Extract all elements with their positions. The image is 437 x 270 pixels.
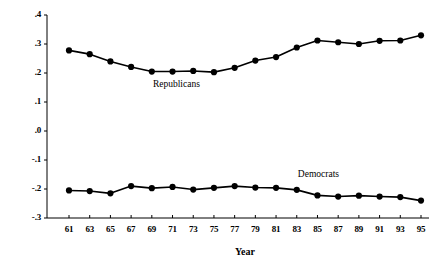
series-line xyxy=(69,35,421,72)
data-point-marker xyxy=(335,39,341,45)
data-point-marker xyxy=(232,65,238,71)
data-point-marker xyxy=(107,58,113,64)
data-point-marker xyxy=(273,185,279,191)
y-axis-tick-label: .3 xyxy=(19,38,41,48)
y-axis-tick-label: .0 xyxy=(19,125,41,135)
x-axis-tick-label: 65 xyxy=(100,224,120,234)
x-axis-tick-label: 87 xyxy=(328,224,348,234)
x-axis-tick-label: 95 xyxy=(411,224,431,234)
data-point-marker xyxy=(87,51,93,57)
data-point-marker xyxy=(66,47,72,53)
data-point-marker xyxy=(356,193,362,199)
data-point-marker xyxy=(149,68,155,74)
data-point-marker xyxy=(294,187,300,193)
axes xyxy=(47,15,429,218)
data-point-marker xyxy=(314,37,320,43)
data-point-marker xyxy=(273,54,279,60)
data-point-marker xyxy=(314,192,320,198)
x-axis-tick-label: 61 xyxy=(59,224,79,234)
x-axis-tick-label: 75 xyxy=(204,224,224,234)
data-point-marker xyxy=(107,190,113,196)
x-axis-tick-label: 85 xyxy=(307,224,327,234)
series-label-republicans: Republicans xyxy=(153,79,200,89)
x-axis-tick-label: 93 xyxy=(390,224,410,234)
data-series-group xyxy=(66,32,424,204)
data-point-marker xyxy=(397,37,403,43)
data-point-marker xyxy=(128,183,134,189)
data-point-marker xyxy=(66,187,72,193)
data-point-marker xyxy=(335,193,341,199)
data-point-marker xyxy=(211,69,217,75)
x-axis-tick-label: 77 xyxy=(225,224,245,234)
data-point-marker xyxy=(252,184,258,190)
y-axis-tick-label: .2 xyxy=(19,67,41,77)
data-point-marker xyxy=(169,184,175,190)
data-point-marker xyxy=(356,41,362,47)
series-line xyxy=(69,186,421,201)
x-axis-tick-label: 69 xyxy=(142,224,162,234)
x-axis-tick-label: 67 xyxy=(121,224,141,234)
series-democrats xyxy=(66,183,424,204)
data-point-marker xyxy=(232,183,238,189)
data-point-marker xyxy=(376,38,382,44)
data-point-marker xyxy=(397,194,403,200)
data-point-marker xyxy=(169,68,175,74)
x-axis-tick-label: 71 xyxy=(163,224,183,234)
data-point-marker xyxy=(149,185,155,191)
y-axis-tick-label: -.1 xyxy=(19,154,41,164)
x-axis-tick-label: 83 xyxy=(287,224,307,234)
x-axis-title: Year xyxy=(215,246,275,257)
data-point-marker xyxy=(418,198,424,204)
data-point-marker xyxy=(252,57,258,63)
data-point-marker xyxy=(294,44,300,50)
data-point-marker xyxy=(376,193,382,199)
y-axis-tick-label: .1 xyxy=(19,96,41,106)
data-point-marker xyxy=(211,185,217,191)
series-label-democrats: Democrats xyxy=(298,169,339,179)
data-point-marker xyxy=(87,188,93,194)
data-point-marker xyxy=(418,32,424,38)
data-point-marker xyxy=(128,64,134,70)
data-point-marker xyxy=(190,186,196,192)
x-axis-tick-label: 91 xyxy=(370,224,390,234)
x-axis-tick-label: 81 xyxy=(266,224,286,234)
x-axis-tick-label: 89 xyxy=(349,224,369,234)
y-axis-tick-label: -.3 xyxy=(19,212,41,222)
x-axis-tick-label: 73 xyxy=(183,224,203,234)
data-point-marker xyxy=(190,68,196,74)
y-axis-tick-label: -.2 xyxy=(19,183,41,193)
y-axis-tick-label: .4 xyxy=(19,9,41,19)
x-axis-tick-label: 79 xyxy=(245,224,265,234)
x-axis-tick-label: 63 xyxy=(80,224,100,234)
series-republicans xyxy=(66,32,424,75)
line-chart: .4.3.2.1.0-.1-.2-.3 61636567697173757779… xyxy=(0,0,437,270)
